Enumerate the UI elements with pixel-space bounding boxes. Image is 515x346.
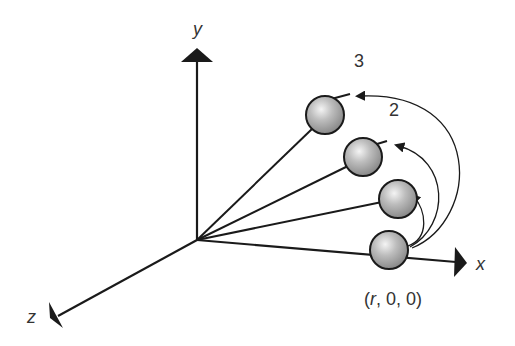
z-axis xyxy=(49,240,197,328)
sphere-origin xyxy=(370,231,408,269)
y-axis-label: y xyxy=(191,19,203,39)
step-label-3: 3 xyxy=(354,51,364,71)
sphere-position-2 xyxy=(344,138,382,176)
step-label-2: 2 xyxy=(389,100,399,120)
position-label: (r, 0, 0) xyxy=(364,289,422,309)
y-axis-arrow-icon xyxy=(181,48,213,62)
position-label-rest: , 0, 0) xyxy=(376,289,422,309)
sphere-position-1 xyxy=(379,180,417,218)
sphere-position-3 xyxy=(306,96,344,134)
x-axis xyxy=(197,240,467,277)
z-axis-label: z xyxy=(26,307,36,327)
y-axis xyxy=(181,48,213,240)
rotation-diagram: y x z 3 2 (r, 0, 0) xyxy=(0,0,515,346)
x-axis-label: x xyxy=(475,254,486,274)
x-axis-arrow-icon xyxy=(454,247,467,277)
spheres xyxy=(306,96,417,269)
